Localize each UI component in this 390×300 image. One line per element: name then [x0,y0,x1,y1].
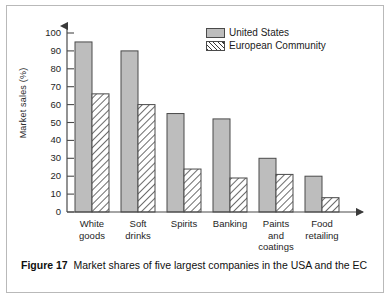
figure-frame: Market sales (%) 0102030405060708090100 … [6,5,384,293]
bar-european-community [138,105,155,212]
bar-european-community [230,178,247,212]
chart-legend: United States European Community [206,27,326,51]
legend-item-european-community: European Community [206,40,326,51]
legend-swatch-icon-united-states [206,28,225,38]
y-axis-ticks [67,33,74,212]
bar-european-community [322,198,339,212]
figure-caption: Figure 17 Market shares of five largest … [21,258,373,272]
bar-european-community [92,94,109,212]
bar-united-states [121,51,138,212]
figure-caption-label: Figure 17 [21,259,68,271]
bar-united-states [75,42,92,212]
legend-swatch-icon-european-community [206,41,225,51]
figure-caption-text: Market shares of five largest companies … [74,259,368,271]
legend-label-european-community: European Community [229,40,326,51]
bar-european-community [276,174,293,212]
bar-chart-svg [7,6,385,252]
plot-area: Market sales (%) 0102030405060708090100 … [7,6,385,252]
bar-united-states [213,119,230,212]
bar-united-states [167,114,184,212]
bars-group [75,42,339,212]
figure-container: Market sales (%) 0102030405060708090100 … [0,0,390,300]
legend-label-united-states: United States [229,27,289,38]
bar-united-states [305,176,322,212]
bar-european-community [184,169,201,212]
legend-item-united-states: United States [206,27,326,38]
bar-united-states [259,158,276,212]
